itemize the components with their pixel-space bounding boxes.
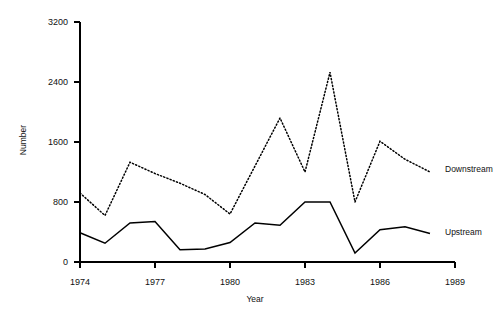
y-tick-label-0: 0 [63, 257, 68, 267]
x-tick-label-1974: 1974 [70, 277, 90, 287]
line-chart-svg: 0 800 1600 2400 3200 1974 1977 1980 1983… [0, 0, 504, 312]
series-label-upstream: Upstream [445, 227, 482, 237]
y-tick-label-800: 800 [53, 197, 68, 207]
x-tick-label-1983: 1983 [295, 277, 315, 287]
x-axis-ticks [80, 262, 455, 268]
series-line-upstream [80, 202, 430, 253]
chart-figure: 0 800 1600 2400 3200 1974 1977 1980 1983… [0, 0, 504, 312]
series-line-downstream [80, 72, 430, 215]
x-tick-label-1989: 1989 [445, 277, 465, 287]
y-axis-title: Number [18, 125, 28, 155]
y-tick-label-1600: 1600 [48, 137, 68, 147]
x-tick-label-1980: 1980 [220, 277, 240, 287]
y-tick-label-2400: 2400 [48, 77, 68, 87]
x-axis-title: Year [246, 294, 263, 304]
x-tick-label-1977: 1977 [145, 277, 165, 287]
x-tick-label-1986: 1986 [370, 277, 390, 287]
series-label-downstream: Downstream [445, 164, 493, 174]
y-axis-ticks [74, 22, 80, 262]
y-tick-label-3200: 3200 [48, 17, 68, 27]
